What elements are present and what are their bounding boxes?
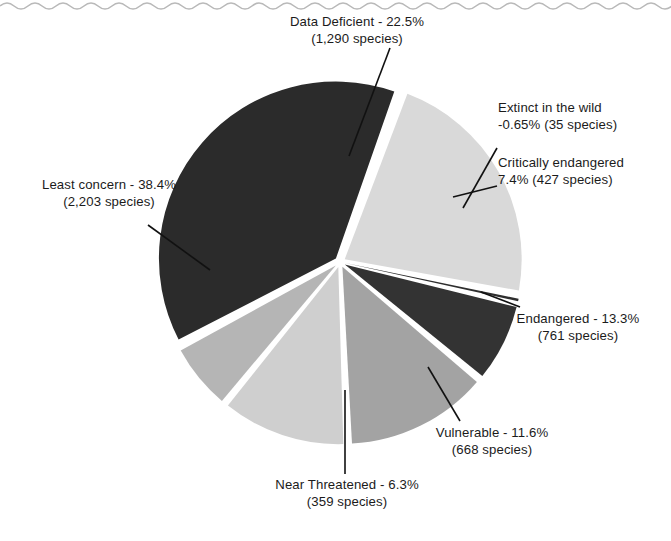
pie-label-data-deficient-line1: Data Deficient - 22.5% (262, 14, 452, 31)
pie-label-vulnerable: Vulnerable - 11.6% (668 species) (412, 425, 572, 458)
pie-label-least-concern-line1: Least concern - 38.4% (14, 177, 204, 194)
pie-label-vulnerable-line2: (668 species) (412, 442, 572, 459)
pie-label-vulnerable-line1: Vulnerable - 11.6% (412, 425, 572, 442)
figure-canvas: Data Deficient - 22.5% (1,290 species) E… (0, 0, 671, 541)
pie-label-least-concern: Least concern - 38.4% (2,203 species) (14, 177, 204, 210)
pie-label-near-threatened: Near Threatened - 6.3% (359 species) (257, 477, 437, 510)
pie-label-endangered-line2: (761 species) (494, 328, 662, 345)
pie-label-data-deficient-line2: (1,290 species) (262, 31, 452, 48)
pie-label-endangered: Endangered - 13.3% (761 species) (494, 311, 662, 344)
pie-label-extinct-in-the-wild-line1: Extinct in the wild (498, 100, 668, 117)
pie-label-endangered-line1: Endangered - 13.3% (494, 311, 662, 328)
pie-label-near-threatened-line2: (359 species) (257, 494, 437, 511)
pie-chart (0, 0, 671, 541)
pie-label-extinct-in-the-wild: Extinct in the wild -0.65% (35 species) (498, 100, 668, 133)
pie-label-critically-endangered-line2: 7.4% (427 species) (498, 172, 668, 189)
pie-label-data-deficient: Data Deficient - 22.5% (1,290 species) (262, 14, 452, 47)
pie-label-near-threatened-line1: Near Threatened - 6.3% (257, 477, 437, 494)
pie-label-extinct-in-the-wild-line2: -0.65% (35 species) (498, 117, 668, 134)
pie-slices (159, 81, 522, 444)
pie-label-least-concern-line2: (2,203 species) (14, 194, 204, 211)
pie-label-critically-endangered-line1: Critically endangered (498, 155, 668, 172)
pie-label-critically-endangered: Critically endangered 7.4% (427 species) (498, 155, 668, 188)
